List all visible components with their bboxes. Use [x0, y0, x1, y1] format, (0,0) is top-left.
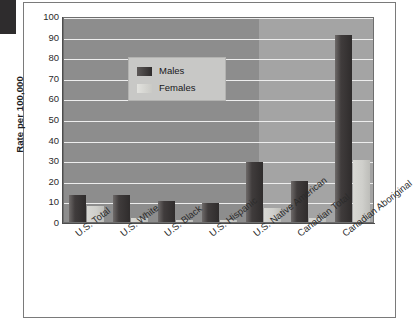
y-axis-tick-label: 20 — [33, 177, 59, 187]
plot-area — [63, 17, 374, 223]
gridline — [64, 121, 373, 122]
gridline — [64, 142, 373, 143]
legend-label-females: Females — [159, 82, 195, 93]
y-axis-tick-label: 80 — [33, 53, 59, 63]
y-axis-tick-label: 50 — [33, 115, 59, 125]
bar-males — [69, 195, 86, 222]
gridline — [64, 39, 373, 40]
legend-swatch-females-icon — [137, 84, 152, 93]
y-axis-tick-label: 60 — [33, 94, 59, 104]
y-axis-tick-label: 0 — [33, 218, 59, 228]
bar-males — [202, 203, 219, 222]
y-axis-tick-label: 90 — [33, 33, 59, 43]
gridline — [64, 18, 373, 19]
bar-males — [246, 162, 263, 222]
chart-legend: Males Females — [128, 57, 226, 101]
y-axis-tick-labels: 0102030405060708090100 — [28, 0, 59, 322]
gridline — [64, 162, 373, 163]
y-axis-tick-label: 70 — [33, 74, 59, 84]
legend-swatch-males-icon — [137, 67, 152, 76]
legend-label-males: Males — [159, 65, 184, 76]
y-axis-tick-label: 30 — [33, 156, 59, 166]
y-axis-title: Rate per 100,000 — [14, 65, 25, 165]
y-axis-tick-label: 40 — [33, 136, 59, 146]
y-axis-tick-label: 100 — [33, 12, 59, 22]
bar-males — [158, 201, 175, 222]
y-axis-tick-label: 10 — [33, 197, 59, 207]
bar-males — [113, 195, 130, 222]
